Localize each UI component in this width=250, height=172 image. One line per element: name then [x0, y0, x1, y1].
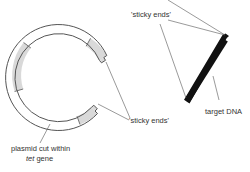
plasmid [6, 25, 107, 131]
target-dna [184, 34, 229, 104]
leader-line-target-dna [213, 76, 219, 100]
label-target-dna: target DNA [205, 107, 242, 116]
leader-line-sticky-top-to-dna [168, 20, 225, 35]
label-sticky-ends-top: 'sticky ends' [131, 10, 172, 19]
plasmid-inner-arc [15, 34, 100, 122]
leader-line-plasmid [40, 124, 50, 143]
leader-line-sticky-top-to-dna [168, 0, 225, 35]
diagram-svg: 'sticky ends' 'sticky ends' target DNA p… [0, 0, 250, 172]
label-gene-word: gene [34, 154, 53, 163]
target-dna-body [185, 39, 228, 102]
label-sticky-ends-bottom: 'sticky ends' [129, 116, 170, 125]
leader-line-sticky-bottom-to-plasmid-top [106, 62, 130, 118]
label-plasmid-line2: tet gene [26, 154, 53, 163]
leader-line-sticky-top-to-dna-bottom [160, 24, 186, 98]
diagram-canvas: 'sticky ends' 'sticky ends' target DNA p… [0, 0, 250, 172]
label-plasmid-line1: plasmid cut within [11, 144, 70, 153]
leader-line-sticky-bottom-to-plasmid-bottom [98, 104, 129, 120]
